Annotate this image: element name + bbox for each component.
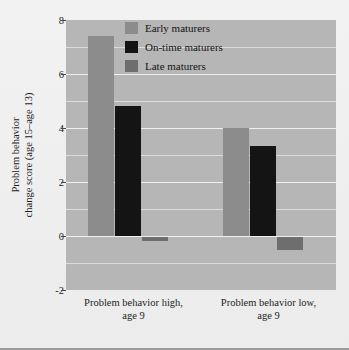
y-axis-tick-mark bbox=[61, 290, 66, 291]
legend-label: Late maturers bbox=[145, 60, 206, 72]
y-axis-tick-label: 2 bbox=[4, 177, 64, 188]
y-axis-tick-label: 8 bbox=[4, 15, 64, 26]
x-axis-category-line-1: Problem behavior low, bbox=[221, 297, 316, 308]
y-axis-tick-label: 4 bbox=[4, 123, 64, 134]
gridline-zero bbox=[66, 236, 336, 237]
y-axis-tick-mark bbox=[61, 128, 66, 129]
legend-item: On-time maturers bbox=[125, 41, 223, 53]
y-axis-tick-label: 0 bbox=[4, 231, 64, 242]
legend-swatch-icon bbox=[125, 41, 138, 53]
legend-swatch-icon bbox=[125, 22, 138, 34]
legend-swatch-icon bbox=[125, 60, 138, 72]
x-axis-category-line-2: age 9 bbox=[189, 309, 349, 322]
legend-label: Early maturers bbox=[145, 22, 210, 34]
legend-item: Late maturers bbox=[125, 60, 223, 72]
chart-legend: Early maturersOn-time maturersLate matur… bbox=[125, 22, 223, 72]
x-axis-category-line-1: Problem behavior high, bbox=[84, 297, 183, 308]
chart-figure: Problem behavior change score (age 15–ag… bbox=[0, 0, 349, 350]
legend-item: Early maturers bbox=[125, 22, 223, 34]
x-axis-category-label: Problem behavior low,age 9 bbox=[189, 296, 349, 322]
y-axis-tick-label: -2 bbox=[4, 285, 64, 296]
legend-label: On-time maturers bbox=[145, 41, 223, 53]
y-axis-tick-mark bbox=[61, 74, 66, 75]
y-axis-tick-label: 6 bbox=[4, 69, 64, 80]
y-axis-tick-mark bbox=[61, 182, 66, 183]
y-axis-tick-mark bbox=[61, 20, 66, 21]
